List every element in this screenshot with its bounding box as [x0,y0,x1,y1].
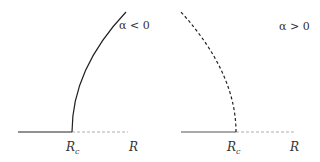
condition-label-left: α < 0 [119,20,150,31]
panel-left [18,12,128,132]
axis-label-left: R [129,141,138,153]
axis-label-right: R [290,141,299,153]
critical-label-right: Rc [227,141,241,156]
panel-right [181,12,294,132]
bifurcation-diagram [0,0,320,162]
critical-label-left: Rc [66,141,80,156]
stable-branch [72,12,126,132]
unstable-branch [181,12,236,132]
condition-label-right: α > 0 [279,21,310,32]
